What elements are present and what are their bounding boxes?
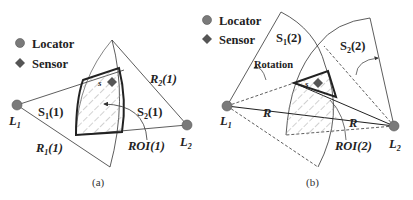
roi-label-b: ROI(2) (334, 139, 372, 153)
r2-label-a: R2(1) (149, 72, 177, 88)
caption-b: (b) (306, 176, 319, 189)
s1-rotated-ray-upper (227, 83, 294, 106)
l2-label-b: L2 (388, 137, 401, 153)
s2-ray-upper (370, 18, 394, 126)
figure: Locator Sensor s L1 L2 S1(1) S2(1) R1(1)… (0, 0, 413, 200)
legend-a: Locator Sensor (15, 37, 75, 71)
locator-legend-icon-b (203, 16, 212, 25)
sensor-legend-icon (15, 58, 25, 68)
locator-l2-b (389, 121, 399, 131)
panel-a: Locator Sensor s L1 L2 S1(1) S2(1) R1(1)… (8, 37, 192, 190)
rotation-label: Rotation (254, 59, 293, 70)
sensor-label-b: s (304, 79, 309, 89)
panel-b: Locator Sensor s L1 (202, 12, 401, 189)
r-label-left: R (262, 106, 271, 120)
locator-legend-icon (16, 39, 25, 48)
l1-label-b: L1 (219, 114, 232, 130)
l2-label-a: L2 (179, 135, 192, 151)
l1-label-a: L1 (8, 114, 21, 130)
legend-sensor-label-b: Sensor (219, 33, 256, 47)
legend-locator-label-b: Locator (219, 14, 262, 28)
sensor-legend-icon-b (202, 34, 212, 44)
locator-l2-a (182, 120, 192, 130)
legend-sensor-label: Sensor (32, 57, 69, 71)
locator-l1-a (12, 100, 22, 110)
locator-l1-b (222, 101, 232, 111)
s2-label-b: S2(2) (340, 39, 366, 55)
s1-label-a: S1(1) (38, 105, 64, 121)
s2-label-a: S2(1) (137, 105, 163, 121)
caption-a: (a) (92, 176, 105, 189)
legend-b: Locator Sensor (202, 14, 262, 47)
rotation-arrow-l2 (356, 58, 378, 75)
r1-label-a: R1(1) (35, 141, 63, 157)
roi-label-a: ROI(1) (127, 139, 165, 153)
legend-locator-label: Locator (32, 37, 75, 51)
r-label-right: R (348, 116, 357, 130)
sensor-label-a: s (97, 78, 102, 88)
s1-label-b: S1(2) (276, 31, 302, 47)
